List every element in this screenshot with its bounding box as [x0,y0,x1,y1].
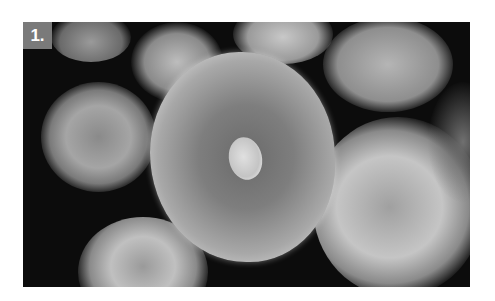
cell-top-left [51,22,131,62]
figure-label-badge: 1. [23,22,52,49]
cell-top-right [323,22,453,112]
cell-left [41,82,156,192]
micrograph-image [23,22,470,287]
